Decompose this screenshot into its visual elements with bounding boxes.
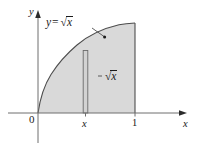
- x-tick-label: x: [82, 119, 87, 130]
- curve-equation-label: y=√x: [46, 16, 73, 29]
- figure-container: y=√x √x y x 0 x 1: [0, 0, 197, 151]
- x-axis-label: x: [183, 119, 188, 130]
- x-axis-arrowhead-icon: [179, 110, 187, 116]
- y-axis-arrowhead-icon: [35, 10, 41, 18]
- radicand: x: [66, 16, 73, 29]
- one-tick-label: 1: [132, 118, 137, 129]
- origin-label: 0: [29, 114, 35, 125]
- strip-height-label: √x: [104, 70, 117, 83]
- radical-expression: √x: [104, 70, 117, 83]
- radicand: x: [110, 70, 117, 83]
- equation-equals-sign: =: [51, 16, 60, 28]
- representative-strip: [83, 51, 88, 114]
- y-axis-label: y: [29, 7, 34, 18]
- graph-canvas: [0, 0, 197, 151]
- equation-leader-dot: [103, 36, 106, 39]
- radical-expression: √x: [60, 16, 73, 29]
